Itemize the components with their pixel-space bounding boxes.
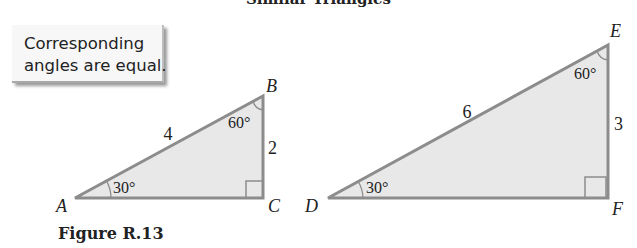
- angle-label-d: 30°: [366, 179, 388, 196]
- angle-label-a: 30°: [113, 179, 135, 196]
- vertex-label-d: D: [304, 196, 318, 216]
- side-label-de: 6: [463, 102, 472, 122]
- vertex-label-a: A: [55, 196, 68, 216]
- vertex-label-c: C: [268, 196, 281, 216]
- vertex-label-e: E: [609, 21, 621, 41]
- side-label-ef: 3: [614, 114, 623, 134]
- side-label-bc: 2: [268, 138, 277, 158]
- side-label-ab: 4: [164, 124, 173, 144]
- triangle-def: D E F 6 3 30° 60°: [304, 21, 624, 219]
- triangles-diagram: A B C 4 2 30° 60° D E F 6 3 30° 60°: [0, 0, 637, 248]
- angle-label-b: 60°: [228, 114, 250, 131]
- vertex-label-b: B: [266, 76, 277, 96]
- vertex-label-f: F: [611, 199, 624, 219]
- triangle-abc: A B C 4 2 30° 60°: [55, 76, 281, 216]
- angle-label-e: 60°: [574, 65, 596, 82]
- figure-caption: Figure R.13: [58, 224, 164, 243]
